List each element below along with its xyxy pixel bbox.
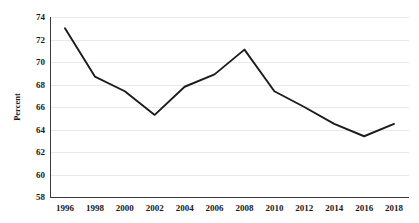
y-tick-label-58: 58 [36,192,46,202]
y-tick-label-64: 64 [36,125,46,135]
x-tick-label-2000: 2000 [116,203,135,213]
x-tick-label-2006: 2006 [206,203,225,213]
x-tick-label-2004: 2004 [176,203,195,213]
x-tick-label-2012: 2012 [295,203,314,213]
y-tick-label-66: 66 [36,102,46,112]
y-tick-label-60: 60 [36,170,46,180]
x-tick-label-2002: 2002 [146,203,165,213]
y-tick-label-72: 72 [36,35,46,45]
line-chart-figure: 5860626466687072741996199820002002200420… [0,0,419,223]
gridlines-group [50,18,409,176]
y-tick-labels-group: 586062646668707274 [36,12,46,202]
x-tick-label-2016: 2016 [355,203,374,213]
y-tick-label-62: 62 [36,147,46,157]
x-tick-label-1998: 1998 [86,203,105,213]
x-tick-label-2018: 2018 [385,203,404,213]
y-axis-title: Percent [12,93,22,121]
x-tick-label-1996: 1996 [56,203,75,213]
y-tick-label-70: 70 [36,57,46,67]
x-tick-label-2008: 2008 [235,203,254,213]
series-line-Percent [65,28,394,136]
x-tick-label-2010: 2010 [265,203,284,213]
y-tick-label-74: 74 [36,12,46,22]
x-tick-labels-group: 1996199820002002200420062008201020122014… [56,203,404,213]
x-tick-label-2014: 2014 [325,203,344,213]
chart-canvas: 5860626466687072741996199820002002200420… [0,0,419,223]
y-tick-label-68: 68 [36,80,46,90]
